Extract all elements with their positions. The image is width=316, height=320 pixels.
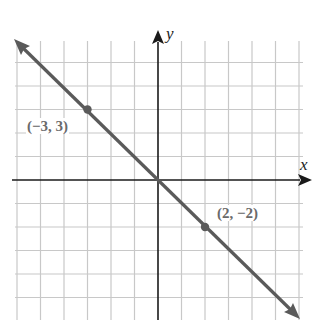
point-label-neg3-3: (−3, 3) — [26, 118, 69, 134]
axes — [12, 30, 312, 320]
x-axis-label: x — [300, 156, 308, 173]
point-label-2-neg2: (2, −2) — [216, 205, 259, 221]
point-2-neg2 — [201, 223, 209, 231]
y-axis-arrow-icon — [152, 30, 164, 44]
x-axis-arrow-icon — [298, 174, 312, 186]
coordinate-plane — [0, 0, 316, 320]
plotted-line — [14, 39, 300, 319]
point-neg3-3 — [83, 105, 91, 113]
y-axis-label: y — [166, 25, 174, 42]
